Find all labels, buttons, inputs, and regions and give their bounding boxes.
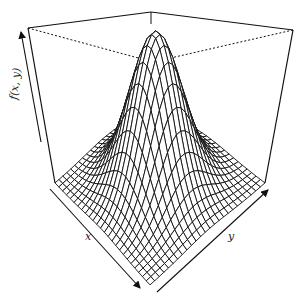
z-axis-label: f(x, y) bbox=[7, 67, 23, 101]
x-axis-label: x bbox=[85, 230, 92, 243]
y-axis-label: y bbox=[227, 230, 235, 243]
surface-mesh bbox=[55, 31, 265, 285]
surface-plot: x y f(x, y) bbox=[0, 0, 301, 304]
